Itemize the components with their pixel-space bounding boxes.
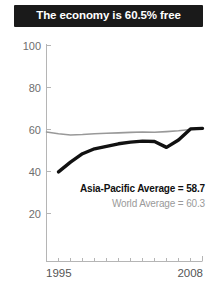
- y-tick-label-80: 80: [29, 82, 41, 94]
- chart-plot-area: 100 80 60 40 20 1995 2008: [0, 0, 215, 298]
- economy-freedom-chart: The economy is 60.5% free 100 80 60 40 2…: [0, 0, 215, 298]
- x-tick-label-start: 1995: [46, 267, 72, 279]
- legend-row-primary: Asia-Pacific Average = 58.7: [0, 180, 205, 195]
- legend-label-asia-pacific: Asia-Pacific Average = 58.7: [80, 183, 205, 194]
- chart-legend: Asia-Pacific Average = 58.7 World Averag…: [0, 180, 205, 210]
- x-tick-label-end: 2008: [177, 267, 203, 279]
- y-tick-label-60: 60: [29, 124, 41, 136]
- legend-label-world-average: World Average = 60.3: [112, 198, 205, 209]
- x-tick-marks: [47, 256, 203, 262]
- legend-row-secondary: World Average = 60.3: [0, 195, 205, 210]
- y-tick-label-40: 40: [29, 166, 41, 178]
- y-tick-label-100: 100: [23, 40, 41, 52]
- series-line-world-average: [47, 129, 203, 135]
